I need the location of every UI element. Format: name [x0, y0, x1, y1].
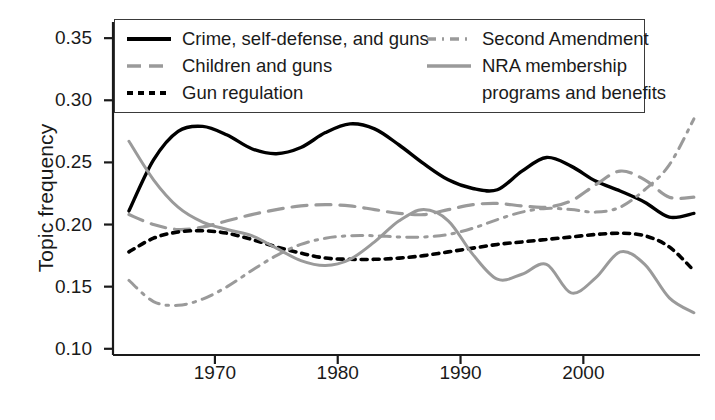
legend-label-second-amendment: Second Amendment	[482, 26, 649, 51]
legend-label-gun-regulation: Gun regulation	[182, 80, 303, 105]
solid-black-line-icon	[125, 26, 173, 50]
legend-item-nra: NRA membership	[425, 53, 640, 80]
chart-legend: Crime, self-defense, and guns Children a…	[114, 19, 645, 113]
dashed-gray-line-icon	[125, 53, 173, 77]
dotted-black-line-icon	[125, 80, 173, 104]
series-line	[129, 124, 694, 218]
legend-item-crime: Crime, self-defense, and guns	[125, 26, 425, 53]
legend-label-crime: Crime, self-defense, and guns	[182, 26, 429, 51]
series-line	[129, 141, 694, 312]
legend-item-second-amendment: Second Amendment	[425, 26, 640, 53]
legend-item-children: Children and guns	[125, 53, 425, 80]
legend-label-children: Children and guns	[182, 53, 332, 78]
chart-figure: Topic frequency 0.100.150.200.250.300.35…	[0, 0, 715, 420]
legend-item-gun-regulation: Gun regulation	[125, 80, 425, 107]
legend-label-nra-continued: programs and benefits	[482, 80, 666, 105]
legend-column-left: Crime, self-defense, and guns Children a…	[125, 26, 425, 108]
series-line	[129, 171, 694, 230]
dashdot-gray-line-icon	[425, 26, 473, 50]
legend-label-nra: NRA membership	[482, 53, 627, 78]
solid-gray-line-icon	[425, 53, 473, 77]
legend-item-nra-line2: programs and benefits	[425, 80, 640, 107]
legend-column-right: Second Amendment NRA membership programs…	[425, 26, 640, 108]
